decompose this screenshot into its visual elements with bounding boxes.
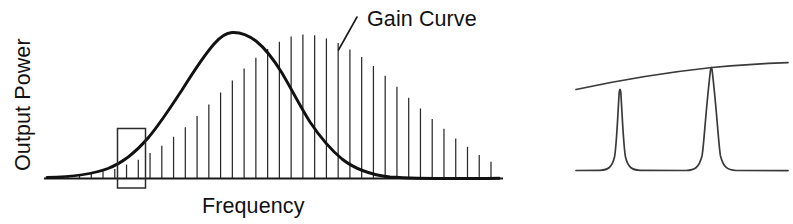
gain-curve-label: Gain Curve (367, 7, 477, 31)
gain-curve-panel: Gain Curve Output Power Frequency (11, 7, 502, 218)
local-gain-envelope-path (576, 63, 788, 90)
gain-curve-path (47, 32, 499, 178)
mode-detail-panel (576, 63, 788, 171)
x-axis-label: Frequency (202, 194, 305, 218)
y-axis-label: Output Power (11, 38, 35, 171)
gain-curve-leader-line (339, 17, 358, 50)
gain-curve-figure: Gain Curve Output Power Frequency (0, 0, 793, 224)
figure-canvas: Gain Curve Output Power Frequency (0, 0, 793, 224)
longitudinal-mode-lines (56, 35, 491, 179)
